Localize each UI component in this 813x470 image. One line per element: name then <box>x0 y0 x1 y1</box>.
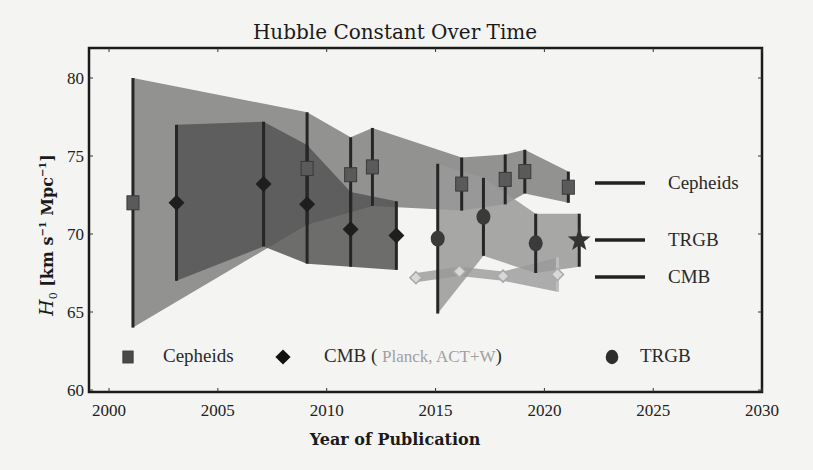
x-axis-label: Year of Publication <box>309 430 481 449</box>
legend-right-label: CMB <box>668 266 710 287</box>
chart-canvas: 2000200520102015202020252030 6065707580 … <box>0 0 813 470</box>
x-tick-label: 2015 <box>419 401 453 420</box>
diamond-marker-icon <box>275 349 290 364</box>
square-marker-icon <box>499 172 511 186</box>
legend-bottom: CepheidsCMB ( Planck, ACT+W)TRGB <box>123 345 691 367</box>
legend-label-cepheids: Cepheids <box>163 345 234 366</box>
legend-right-label: TRGB <box>668 229 719 250</box>
circle-marker-icon <box>606 350 619 364</box>
legend-label-cmb: CMB ( Planck, ACT+W) <box>324 345 502 367</box>
x-tick-label: 2030 <box>745 401 779 420</box>
uncertainty-bands <box>133 78 579 328</box>
y-axis-label: H0 [km s−1 Mpc−1] <box>35 154 60 317</box>
circle-marker-icon <box>476 209 490 225</box>
square-marker-icon <box>519 165 531 179</box>
chart-title: Hubble Constant Over Time <box>253 20 537 44</box>
x-tick-label: 2010 <box>310 401 344 420</box>
square-marker-icon <box>366 160 378 174</box>
circle-marker-icon <box>431 231 445 247</box>
hubble-constant-chart: 2000200520102015202020252030 6065707580 … <box>0 0 813 470</box>
square-marker-icon <box>562 180 574 194</box>
legend-label-trgb: TRGB <box>640 345 691 366</box>
square-marker-icon <box>301 161 313 175</box>
square-marker-icon <box>127 196 139 210</box>
y-tick-label: 75 <box>67 147 84 166</box>
y-tick-label: 70 <box>67 225 84 244</box>
circle-marker-icon <box>529 235 543 251</box>
square-marker-icon <box>123 351 133 363</box>
y-tick-label: 60 <box>67 381 84 400</box>
x-tick-label: 2005 <box>201 401 235 420</box>
legend-right: CepheidsTRGBCMB <box>595 172 739 287</box>
y-tick-label: 80 <box>67 69 84 88</box>
legend-right-label: Cepheids <box>668 172 739 193</box>
x-tick-label: 2000 <box>92 401 126 420</box>
square-marker-icon <box>456 177 468 191</box>
svg-text:H0 [km s−1 Mpc−1]: H0 [km s−1 Mpc−1] <box>35 154 60 317</box>
y-tick-label: 65 <box>67 303 84 322</box>
square-marker-icon <box>345 168 357 182</box>
x-tick-label: 2025 <box>636 401 670 420</box>
x-tick-label: 2020 <box>527 401 561 420</box>
